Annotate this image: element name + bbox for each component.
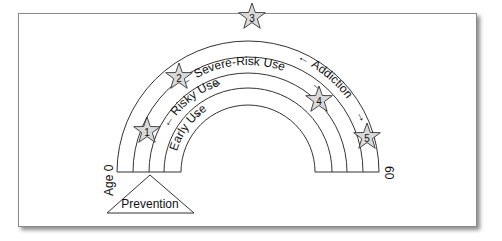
arrow-addiction-left: ← [296, 49, 313, 67]
rainbow-diagram: Early Use → ← Risky Use → ← Severe-Risk … [0, 0, 502, 241]
age-start-label: Age 0 [102, 164, 116, 196]
star-number: 1 [144, 127, 150, 138]
star-number: 4 [316, 96, 322, 107]
star-number: 5 [364, 133, 370, 144]
age-end-label: 60 [382, 166, 396, 180]
arrow-addiction-right: → [353, 108, 371, 125]
stage-label-severe-risk-use: Severe-Risk Use [192, 54, 288, 81]
star-marker-3: 3 [239, 3, 266, 28]
prevention-label: Prevention [121, 197, 178, 211]
star-number: 3 [249, 13, 255, 24]
star-number: 2 [176, 73, 182, 84]
